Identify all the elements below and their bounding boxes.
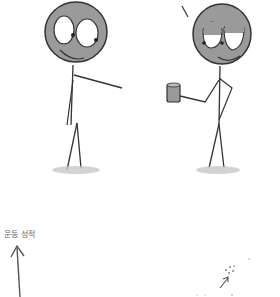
right-shadow [196, 166, 240, 174]
left-eye-right [76, 19, 98, 47]
axis-label: 운동 성적 [4, 228, 35, 239]
left-eye-left [54, 16, 74, 44]
right-figure [167, 4, 251, 174]
right-mug-arm [180, 80, 219, 102]
motion-line [182, 6, 188, 17]
point-annotation [196, 258, 249, 296]
y-axis-arrow [11, 246, 24, 297]
right-hip-arm [219, 78, 232, 120]
comic-drawing [0, 0, 280, 297]
left-figure [45, 2, 122, 174]
left-shadow [52, 166, 100, 174]
comic-canvas: 운동 성적 [0, 0, 280, 297]
left-pointing-arm [74, 75, 122, 88]
